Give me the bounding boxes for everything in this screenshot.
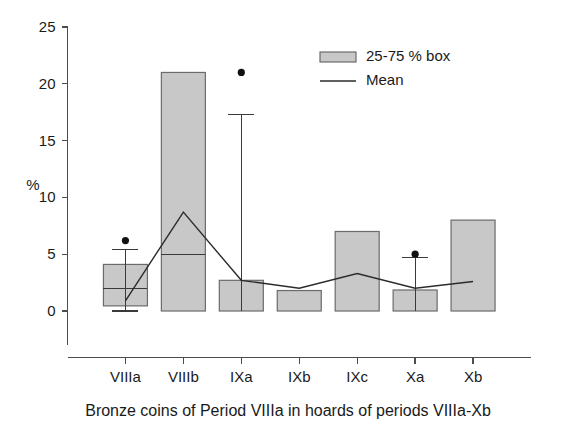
x-tick-label: VIIIa [110, 368, 142, 385]
box-rect [335, 231, 379, 311]
y-tick-label: 15 [39, 132, 56, 149]
box-rect [161, 72, 205, 311]
x-axis-ticks: VIIIaVIIIbIXaIXbIXcXaXb [110, 358, 482, 386]
boxplot-chart: 0510152025 % VIIIaVIIIbIXaIXbIXcXaXb 25-… [0, 0, 561, 439]
y-axis-ticks: 0510152025 [39, 18, 68, 319]
box-series [103, 72, 495, 311]
y-tick-label: 20 [39, 75, 56, 92]
chart-figure: 0510152025 % VIIIaVIIIbIXaIXbIXcXaXb 25-… [0, 0, 561, 439]
legend-label: Mean [366, 71, 404, 88]
y-axis-title: % [26, 176, 39, 193]
y-tick-label: 10 [39, 188, 56, 205]
y-tick-label: 5 [47, 245, 55, 262]
y-tick-label: 0 [47, 302, 55, 319]
chart-caption: Bronze coins of Period VIIIa in hoards o… [85, 402, 491, 419]
legend-label: 25-75 % box [366, 47, 451, 64]
x-tick-label: Xb [464, 368, 482, 385]
x-axis: VIIIaVIIIbIXaIXbIXcXaXb [68, 358, 532, 386]
box-rect [277, 291, 321, 311]
y-axis: 0510152025 % [26, 18, 67, 345]
outlier-point [122, 237, 129, 244]
y-tick-label: 25 [39, 18, 56, 35]
outlier-point [238, 69, 245, 76]
x-tick-label: IXa [230, 368, 253, 385]
chart-legend: 25-75 % boxMean [320, 47, 451, 88]
box-rect [451, 220, 495, 311]
x-tick-label: IXc [346, 368, 368, 385]
x-tick-label: VIIIb [168, 368, 199, 385]
legend-box-swatch [320, 52, 356, 62]
x-tick-label: Xa [406, 368, 425, 385]
whisker-series [112, 114, 428, 311]
outlier-point [412, 251, 419, 258]
x-tick-label: IXb [288, 368, 311, 385]
